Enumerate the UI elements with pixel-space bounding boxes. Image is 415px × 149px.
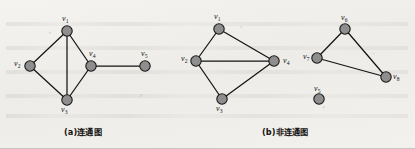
graph-edge: [196, 29, 219, 61]
page-bleed-text-row: [6, 94, 408, 98]
graph-vertex: [312, 53, 322, 63]
vertex-label-v6: v6: [341, 14, 347, 22]
figure-container: v1v2v3v4v5v1v2v3v4v5v6v7v8 (a)连通图 (b)非连通…: [0, 0, 415, 149]
vertex-label-v1: v1: [62, 15, 68, 23]
vertex-label-v3: v3: [216, 105, 222, 113]
graph-vertex: [269, 56, 279, 66]
vertex-label-v5: v5: [141, 50, 147, 58]
vertex-label-v1: v1: [214, 13, 220, 21]
vertex-label-v2: v2: [14, 60, 20, 68]
vertex-label-v5: v5: [314, 85, 320, 93]
vertex-label-v4: v4: [283, 57, 289, 65]
vertex-label-v8: v8: [393, 73, 399, 81]
panel-b: [191, 24, 391, 104]
vertex-label-v2: v2: [181, 55, 187, 63]
vertex-label-v4: v4: [89, 50, 95, 58]
graph-edge: [317, 29, 345, 58]
graph-edge: [219, 29, 274, 61]
page-bleed-text-row: [6, 70, 408, 74]
graph-vertex: [191, 56, 201, 66]
vertex-label-v3: v3: [61, 106, 67, 114]
graph-vertex: [62, 26, 72, 36]
caption-panel-a: (a)连通图: [64, 128, 102, 136]
graph-edge: [317, 58, 386, 77]
page-bottom-rule: [0, 148, 415, 149]
vertex-label-v7: v7: [303, 53, 309, 61]
caption-panel-b: (b)非连通图: [262, 128, 308, 136]
page-bleed-text-row: [6, 46, 408, 50]
